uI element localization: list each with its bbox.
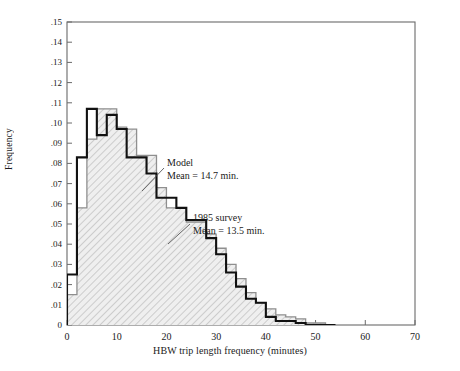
x-axis-title: HBW trip length frequency (minutes) — [0, 345, 460, 356]
x-axis-tick-label: 20 — [161, 331, 171, 342]
x-axis-tick-label: 70 — [410, 331, 420, 342]
model-annotation: Model Mean = 14.7 min. — [167, 157, 238, 182]
x-axis-tick-label: 40 — [261, 331, 271, 342]
y-axis-title: Frequency — [4, 128, 20, 170]
y-axis-tick-label: .14 — [51, 37, 62, 47]
model-annotation-line-2: Mean = 14.7 min. — [167, 170, 238, 183]
x-axis-tick-label: 30 — [211, 331, 221, 342]
histogram-figure — [0, 0, 460, 371]
y-axis-tick-label: .10 — [51, 118, 62, 128]
y-axis-tick-label: .07 — [51, 179, 62, 189]
y-axis-tick-label: .11 — [51, 98, 62, 108]
y-axis-tick-label: .13 — [51, 57, 62, 67]
y-axis-tick-label: .04 — [51, 239, 62, 249]
x-axis-tick-label: 60 — [360, 331, 370, 342]
y-axis-tick-label: 0 — [58, 320, 63, 330]
y-axis-tick-label: .06 — [51, 199, 62, 209]
y-axis-tick-label: .01 — [51, 300, 62, 310]
survey-annotation-line-1: 1985 survey — [193, 212, 264, 225]
survey-annotation: 1985 survey Mean = 13.5 min. — [193, 212, 264, 237]
y-axis-tick-label: .09 — [51, 138, 62, 148]
y-axis-tick-label: .02 — [51, 280, 62, 290]
model-annotation-line-1: Model — [167, 157, 238, 170]
x-axis-tick-label: 0 — [65, 331, 70, 342]
x-axis-tick-label: 10 — [112, 331, 122, 342]
y-axis-tick-label: .12 — [51, 78, 62, 88]
y-axis-tick-label: .15 — [51, 17, 62, 27]
y-axis-tick-label: .03 — [51, 259, 62, 269]
y-axis-tick-label: .05 — [51, 219, 62, 229]
y-axis-tick-labels: 0.01.02.03.04.05.06.07.08.09.10.11.12.13… — [26, 0, 62, 371]
survey-annotation-line-2: Mean = 13.5 min. — [193, 225, 264, 238]
x-axis-tick-label: 50 — [311, 331, 321, 342]
y-axis-tick-label: .08 — [51, 158, 62, 168]
